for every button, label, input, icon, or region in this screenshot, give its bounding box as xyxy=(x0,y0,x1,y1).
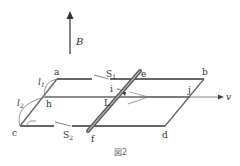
top-rail xyxy=(57,75,204,79)
physics-diagram: B a b c d e f h j S1 xyxy=(0,0,240,166)
point-f-label: f xyxy=(91,134,95,144)
point-h-label: h xyxy=(46,99,52,109)
point-a-label: a xyxy=(54,67,60,77)
velocity-label: v xyxy=(226,92,231,102)
switch-s2 xyxy=(55,122,71,126)
point-c-label: c xyxy=(12,128,17,138)
current-label: i xyxy=(110,84,113,94)
switch-s2-label: S2 xyxy=(63,130,73,141)
point-b-label: b xyxy=(202,67,208,77)
magnetic-field-arrow xyxy=(67,11,74,54)
rod-label: L xyxy=(104,98,110,108)
point-d-label: d xyxy=(162,130,168,140)
right-edge xyxy=(165,79,204,126)
length-l1-label: l1 xyxy=(38,77,45,88)
length-l2-label: l2 xyxy=(17,98,24,109)
point-e-label: e xyxy=(141,69,146,79)
figure-caption: 図2 xyxy=(114,148,127,157)
switch-s1-label: S1 xyxy=(106,69,116,80)
velocity-arrow xyxy=(128,92,224,104)
field-label: B xyxy=(75,36,83,47)
point-j-label: j xyxy=(187,85,191,95)
